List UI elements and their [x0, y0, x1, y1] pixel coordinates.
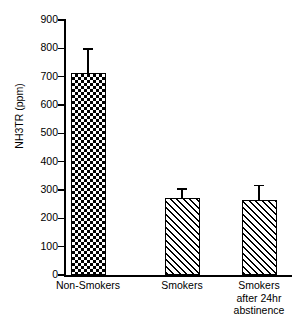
y-axis-tick — [58, 133, 65, 134]
error-bar — [254, 185, 264, 200]
y-axis-tick-label: 100 — [26, 241, 58, 251]
error-bar-cap — [254, 185, 264, 187]
y-axis-tick-label: 700 — [26, 71, 58, 81]
y-axis-tick-label: 300 — [26, 184, 58, 194]
x-axis-tick-label: Non-Smokers — [38, 279, 138, 292]
x-axis-tick-label-line: after 24hr — [209, 292, 307, 305]
y-axis-tick-label: 500 — [26, 127, 58, 137]
y-axis-tick-label-wrap: 400 — [0, 156, 58, 166]
x-axis-tick-label-line: Smokers — [209, 279, 307, 292]
y-axis-tick-label-wrap: 200 — [0, 212, 58, 222]
error-bar-stem — [258, 185, 260, 200]
y-axis-tick-label: 800 — [26, 42, 58, 52]
y-axis-tick-label: 400 — [26, 156, 58, 166]
error-bar — [83, 48, 93, 73]
x-axis-tick-label: Smokersafter 24hrabstinence — [209, 279, 307, 317]
y-axis-tick-label-wrap: 100 — [0, 241, 58, 251]
y-axis-tick-label-wrap: 500 — [0, 127, 58, 137]
plot-area — [65, 20, 292, 275]
y-axis-tick — [58, 19, 65, 20]
x-axis-line — [64, 275, 292, 277]
bar — [71, 73, 106, 275]
y-axis-tick-label: 900 — [26, 14, 58, 24]
y-axis-tick-label-wrap: 0 — [0, 269, 58, 279]
y-axis-tick — [58, 48, 65, 49]
y-axis-tick — [58, 104, 65, 105]
y-axis-tick-label: 0 — [26, 269, 58, 279]
x-axis-tick-label-line: Non-Smokers — [38, 279, 138, 292]
y-axis-tick — [58, 218, 65, 219]
bar — [242, 200, 277, 275]
y-axis-tick — [58, 76, 65, 77]
bar-chart-figure: NH3TR (ppm) 0100200300400500600700800900… — [0, 0, 307, 328]
y-axis-tick — [58, 246, 65, 247]
y-axis-tick-label-wrap: 800 — [0, 42, 58, 52]
error-bar-stem — [87, 48, 89, 73]
bar — [165, 198, 200, 275]
error-bar — [177, 188, 187, 198]
y-axis-tick-label-wrap: 300 — [0, 184, 58, 194]
y-axis-tick-label: 600 — [26, 99, 58, 109]
y-axis-tick-label-wrap: 700 — [0, 71, 58, 81]
y-axis-tick — [58, 189, 65, 190]
y-axis-tick — [58, 161, 65, 162]
error-bar-cap — [83, 48, 93, 50]
y-axis-tick-label-wrap: 600 — [0, 99, 58, 109]
y-axis-tick-label-wrap: 900 — [0, 14, 58, 24]
error-bar-cap — [177, 188, 187, 190]
y-axis-tick-label: 200 — [26, 212, 58, 222]
x-axis-tick-label-line: abstinence — [209, 304, 307, 317]
y-axis-tick — [58, 274, 65, 275]
